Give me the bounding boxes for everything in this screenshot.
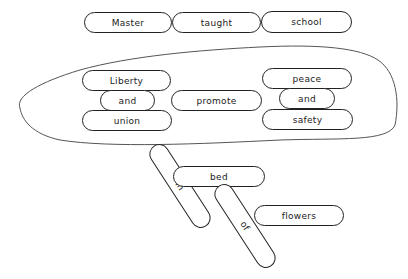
word-pill-promote[interactable]: promote [171, 90, 262, 111]
word-pill-taught[interactable]: taught [172, 12, 261, 33]
word-pill-union[interactable]: union [82, 110, 172, 131]
word-pill-flowers[interactable]: flowers [254, 205, 344, 226]
word-pill-master[interactable]: Master [84, 12, 172, 33]
sentence-enclosure-outline [0, 0, 408, 279]
word-pill-safety[interactable]: safety [262, 109, 353, 130]
word-pill-school[interactable]: school [261, 11, 352, 33]
word-pill-and-left[interactable]: and [100, 90, 155, 111]
word-pill-liberty[interactable]: Liberty [82, 70, 171, 91]
word-pill-bed[interactable]: bed [173, 166, 265, 187]
word-pill-and-right[interactable]: and [279, 88, 335, 109]
word-pill-peace[interactable]: peace [262, 68, 352, 89]
